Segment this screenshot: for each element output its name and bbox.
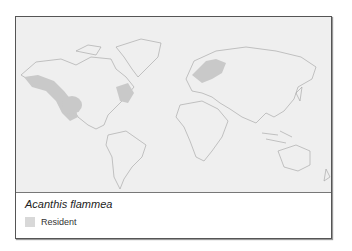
world-map-outline	[16, 17, 331, 192]
range-resident	[24, 59, 226, 121]
range-map-figure: Acanthis flammea Resident	[15, 16, 332, 239]
species-name: Acanthis flammea	[25, 198, 112, 210]
world-map	[16, 17, 331, 193]
legend: Resident	[25, 217, 77, 227]
legend-label-resident: Resident	[41, 217, 77, 227]
legend-swatch-resident	[25, 217, 35, 227]
